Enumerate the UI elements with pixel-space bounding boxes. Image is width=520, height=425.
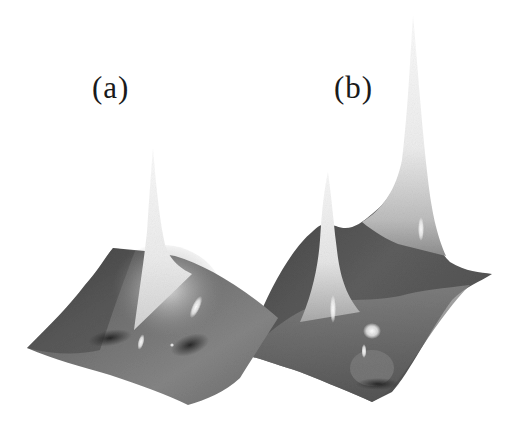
surface-a bbox=[27, 148, 278, 405]
surfaces-graphic bbox=[0, 0, 520, 425]
figure: (a) (b) bbox=[0, 0, 520, 425]
panel-label-a: (a) bbox=[92, 72, 129, 103]
panel-label-b: (b) bbox=[334, 72, 373, 103]
